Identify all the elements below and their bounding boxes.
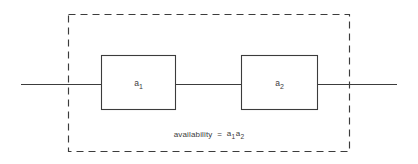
caption-term1-subscript: 1 [231,133,235,140]
block-a2-label-subscript: 2 [280,83,284,90]
caption-lead-word: availability [174,130,213,139]
block-a1-label-subscript: 1 [139,83,143,90]
caption-term2-subscript: 2 [240,133,244,140]
series-availability-diagram: a1 a2 availability = a1a2 [0,0,418,164]
availability-caption: availability = a1a2 [174,129,245,140]
diagram-canvas: a1 a2 availability = a1a2 [0,0,418,164]
